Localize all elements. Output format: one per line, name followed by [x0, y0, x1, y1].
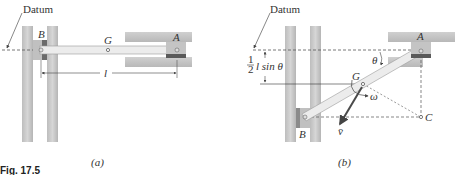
label-c-b: C: [425, 111, 433, 123]
left-wall-a: [22, 26, 33, 142]
velocity-label: v̄: [338, 125, 343, 137]
right-wall-a: [47, 26, 58, 142]
label-a-a: A: [172, 31, 180, 43]
datum-label-b: Datum: [270, 3, 300, 15]
point-c: [419, 115, 422, 118]
length-label-a: l: [104, 67, 107, 79]
center-g-a: [106, 48, 109, 51]
label-b-a: B: [38, 28, 45, 40]
upper-guide-a: [125, 32, 192, 42]
datum-leader-a: [7, 13, 22, 48]
height-expr: l sin θ: [256, 60, 283, 72]
pin-b-b: [303, 115, 307, 119]
pin-b-a: [39, 48, 43, 52]
figure-caption: Fig. 17.5: [0, 165, 40, 175]
collar-a-a-shadow: [166, 54, 186, 58]
frac-den: 2: [248, 63, 254, 75]
theta-arc: [380, 52, 382, 65]
figure-canvas: Datum B G A l (a) Fig. 17.5: [0, 0, 455, 175]
collar-b-b-shadow: [296, 108, 300, 128]
panel-a: Datum B G A l (a): [2, 3, 192, 169]
pin-a-a: [175, 48, 179, 52]
label-g-a: G: [104, 34, 112, 46]
sublabel-b: (b): [338, 156, 351, 169]
angle-label: θ: [372, 54, 378, 66]
datum-leader-b: [254, 13, 270, 48]
collar-a-b-shadow: [411, 54, 431, 58]
label-g-b: G: [352, 70, 360, 82]
pin-a-b: [419, 49, 423, 53]
panel-b: Datum 1 2 l sin θ θ ω: [247, 3, 455, 169]
label-a-b: A: [416, 30, 424, 42]
sublabel-a: (a): [91, 156, 104, 169]
center-g-b: [361, 82, 364, 85]
label-b-b: B: [299, 128, 306, 140]
datum-label-a: Datum: [23, 3, 53, 15]
omega-label: ω: [370, 90, 378, 102]
lower-guide-a: [125, 57, 192, 67]
